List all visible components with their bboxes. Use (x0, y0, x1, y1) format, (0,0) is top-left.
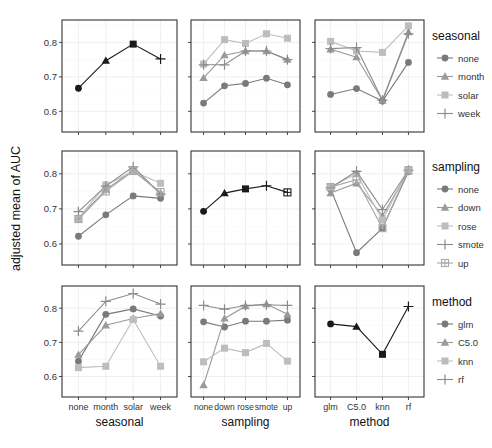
data-point-circle-marker (284, 317, 291, 324)
legend-item-knn: knn (437, 356, 473, 367)
legend-title: method (432, 295, 472, 309)
data-point-square-marker (242, 185, 249, 192)
data-point-square-marker (263, 340, 270, 347)
legend-item-week: week (437, 108, 480, 119)
data-point-square-marker (157, 363, 164, 370)
data-point-circle-marker (102, 311, 109, 318)
legend-item-none: none (437, 53, 479, 64)
data-point-circle-marker (221, 82, 228, 89)
x-tick-label: knn (375, 402, 390, 412)
panel-sampling-by-seasonal: 0.60.70.8 (44, 151, 177, 268)
legend-key-circle-marker (442, 55, 449, 62)
legend-label: smote (458, 239, 484, 250)
legend-label: month (458, 71, 484, 82)
x-tick-label: C5.0 (347, 402, 366, 412)
legend-item-solar: solar (437, 90, 479, 101)
legend-label: knn (458, 356, 473, 367)
x-axis-title: seasonal (95, 415, 143, 429)
data-point-square-marker (379, 49, 386, 56)
legend-label: down (458, 202, 481, 213)
y-tick-label: 0.6 (44, 371, 57, 382)
legend-label: glm (458, 319, 473, 330)
data-point-circle-marker (75, 233, 82, 240)
legend-key-plus-marker (440, 240, 450, 250)
data-point-circle-marker (75, 358, 82, 365)
legend-key-boxplus-cross (442, 260, 449, 267)
panel-method-by-method: glmC5.0knnrfmethod (312, 286, 424, 429)
legend-item-none: none (437, 184, 479, 195)
data-point-circle-marker (242, 318, 249, 325)
data-point-circle-marker (102, 211, 109, 218)
panel-seasonal-by-method (312, 20, 424, 135)
panel-sampling-by-sampling (188, 151, 300, 268)
legend-key-square-marker (442, 223, 449, 230)
legend-method: methodglmC5.0knnrf (432, 295, 478, 385)
legend-item-month: month (437, 71, 484, 82)
legend-key-circle-marker (442, 321, 449, 328)
data-point-square-marker (130, 41, 137, 48)
panel-method-by-sampling: nonedownrosesmoteupsampling (188, 286, 300, 429)
legend-key-square-marker (442, 358, 449, 365)
data-point-square-marker (157, 180, 164, 187)
data-point-square-marker (102, 363, 109, 370)
data-point-circle-marker (263, 318, 270, 325)
panel-background (62, 286, 177, 397)
panel-seasonal-by-sampling (188, 20, 300, 135)
panel-background (315, 286, 424, 397)
data-point-square-marker (242, 349, 249, 356)
data-point-circle-marker (284, 81, 291, 88)
data-point-square-marker (242, 40, 249, 47)
legend-item-rose: rose (437, 221, 476, 232)
x-tick-label: solar (123, 402, 143, 412)
x-tick-label: week (149, 402, 172, 412)
data-point-circle-marker (200, 100, 207, 107)
x-tick-label: up (283, 402, 293, 412)
legend-label: solar (458, 90, 479, 101)
y-tick-label: 0.6 (44, 106, 57, 117)
legend-title: sampling (432, 160, 480, 174)
legend-key-plus-marker (440, 109, 450, 119)
legend-key-plus-marker (440, 375, 450, 385)
x-tick-label: none (194, 402, 213, 412)
legend-label: rose (458, 221, 476, 232)
data-point-square-marker (200, 358, 207, 365)
data-point-square-marker (221, 345, 228, 352)
legend-key-circle-marker (442, 186, 449, 193)
legend-label: none (458, 53, 479, 64)
data-point-circle-marker (242, 80, 249, 87)
panel-seasonal-by-seasonal: 0.60.70.8 (44, 20, 177, 135)
panel-background (62, 151, 177, 265)
y-tick-label: 0.8 (44, 37, 57, 48)
legend-label: none (458, 184, 479, 195)
x-tick-label: rose (237, 402, 254, 412)
y-tick-label: 0.7 (44, 71, 57, 82)
x-tick-label: month (93, 402, 118, 412)
legend-item-rf: rf (437, 374, 464, 385)
legend-label: up (458, 258, 469, 269)
legend-item-down: down (437, 202, 481, 213)
legend-label: week (457, 108, 480, 119)
data-point-square-marker (379, 351, 386, 358)
data-point-circle-marker (405, 59, 412, 66)
panel-method-by-seasonal: 0.60.70.8nonemonthsolarweekseasonal (44, 286, 177, 429)
data-point-square-marker (263, 30, 270, 37)
x-tick-label: smote (255, 402, 279, 412)
x-tick-label: none (68, 402, 88, 412)
data-point-circle-marker (263, 75, 270, 82)
data-point-circle-marker (200, 318, 207, 325)
y-tick-label: 0.8 (44, 303, 57, 314)
legend-key-square-marker (442, 92, 449, 99)
legend-label: rf (458, 374, 464, 385)
x-axis-title: method (349, 415, 389, 429)
x-tick-label: down (214, 402, 235, 412)
data-point-square-marker (75, 364, 82, 371)
y-axis-title: adjusted mean of AUC (9, 146, 23, 271)
data-point-circle-marker (353, 85, 360, 92)
panel-sampling-by-method (312, 151, 424, 268)
legend-label: C5.0 (458, 337, 478, 348)
legend-item-C5.0: C5.0 (437, 337, 478, 348)
chart-canvas: 0.60.70.80.60.70.80.60.70.8nonemonthsola… (0, 0, 492, 448)
panel-background (62, 20, 177, 132)
legend-seasonal: seasonalnonemonthsolarweek (432, 29, 484, 119)
x-axis-title: sampling (221, 415, 269, 429)
